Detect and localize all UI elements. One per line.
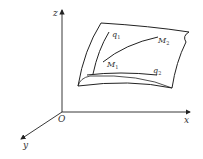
x-axis-label: x [184,115,189,125]
y-axis-label: y [22,140,29,150]
axes [21,10,190,139]
label-q1: q1 [112,30,120,40]
label-M2: M2 [157,36,169,46]
curve-M1-M2 [103,37,158,62]
curve-q2 [87,73,157,75]
coordinate-surface-diagram: z x y O q1 q2 M1 M2 [0,0,203,159]
label-M1: M1 [106,60,118,70]
origin-label: O [58,114,66,124]
label-q2: q2 [153,66,161,76]
z-axis-label: z [52,8,58,18]
y-axis [21,112,62,139]
surface-patch [78,23,189,88]
surface-bottom-edge [78,76,172,88]
